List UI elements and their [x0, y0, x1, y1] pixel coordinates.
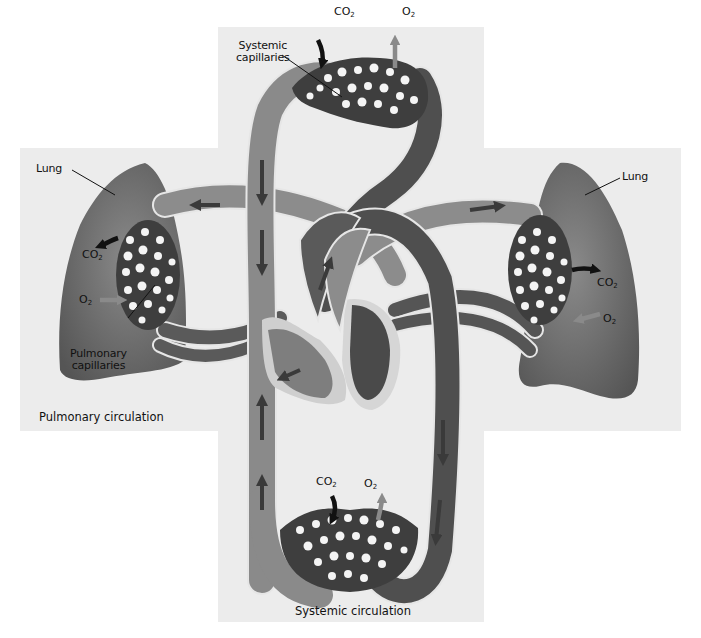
gas-right-co2: CO2: [597, 276, 618, 290]
label-pulmonary-capillaries: Pulmonary capillaries: [70, 348, 127, 372]
circulation-diagram: [0, 0, 701, 638]
gas-bottom-o2: O2: [364, 477, 377, 491]
gas-left-co2: CO2: [82, 248, 103, 262]
label-lung-left: Lung: [36, 163, 62, 175]
gas-top-o2: O2: [402, 5, 415, 19]
label-systemic-capillaries: Systemic capillaries: [236, 40, 290, 64]
gas-left-o2: O2: [79, 293, 92, 307]
label-line: capillaries: [70, 360, 127, 372]
gas-top-co2: CO2: [334, 5, 355, 19]
caption-pulmonary-circulation: Pulmonary circulation: [39, 410, 164, 424]
gas-bottom-co2: CO2: [316, 475, 337, 489]
label-lung-right: Lung: [622, 171, 648, 183]
label-line: capillaries: [236, 52, 290, 64]
caption-systemic-circulation: Systemic circulation: [295, 604, 411, 618]
gas-right-o2: O2: [603, 312, 616, 326]
